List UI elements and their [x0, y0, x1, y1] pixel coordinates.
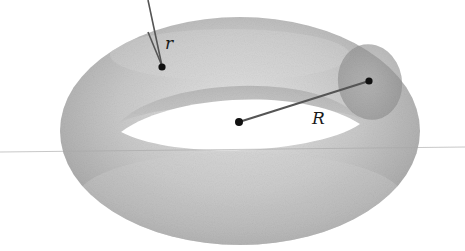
torus-diagram: r R — [0, 0, 465, 251]
major-radius-label: R — [311, 108, 325, 128]
torus-center-point — [235, 118, 243, 126]
tube-center-point-right — [365, 77, 372, 84]
torus-front-highlight — [75, 152, 405, 248]
tube-center-point-left — [158, 63, 165, 70]
minor-radius-label: r — [165, 33, 174, 53]
torus-top-highlight — [110, 29, 350, 81]
